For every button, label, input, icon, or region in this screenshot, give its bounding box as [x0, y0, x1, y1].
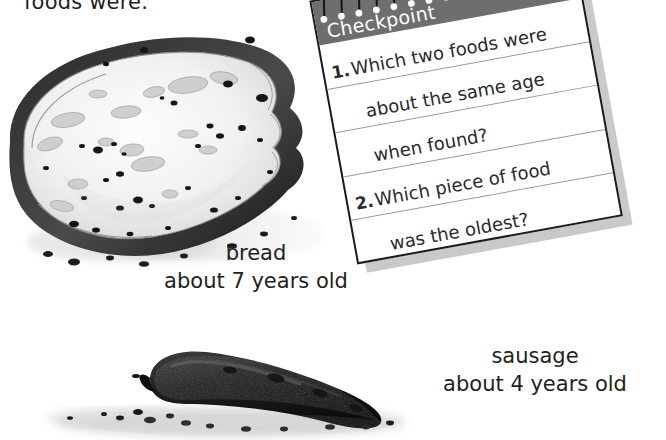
notepad-body: Checkpoint 1.Which two foods wereabout t…	[309, 0, 623, 264]
sausage-caption-name: sausage	[404, 343, 666, 371]
checkpoint-line-number: 2.	[354, 191, 376, 214]
checkpoint-notepad: Checkpoint 1.Which two foods wereabout t…	[309, 0, 623, 264]
bread-caption-name: bread	[148, 240, 364, 268]
checkpoint-line-number: 1.	[330, 59, 352, 82]
partial-sentence-text: foods were.	[24, 0, 148, 14]
sausage-caption-age: about 4 years old	[404, 371, 666, 399]
sausage-caption: sausage about 4 years old	[404, 343, 666, 398]
bread-caption-age: about 7 years old	[148, 268, 364, 296]
bread-caption: bread about 7 years old	[148, 240, 364, 295]
page-canvas: foods were.	[0, 0, 666, 440]
sausage-illustration	[0, 330, 420, 440]
checkpoint-question-lines: 1.Which two foods wereabout the same age…	[320, 0, 621, 265]
bread-illustration	[2, 22, 332, 272]
